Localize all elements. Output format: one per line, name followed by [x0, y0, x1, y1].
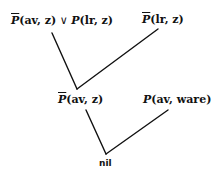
- predicate-args: (av, z): [19, 14, 56, 27]
- resolution-tree-diagram: P(av, z) ∨ P(lr, z) P(lr, z) P(av, z) P(…: [0, 0, 214, 173]
- predicate-args: (av, ware): [151, 93, 211, 106]
- node-nil: nil: [99, 156, 112, 170]
- edge-middleright-to-nil: [106, 110, 168, 154]
- predicate-args: (lr, z): [150, 13, 184, 26]
- predicate: P: [71, 14, 79, 27]
- edge-topleft-to-middleleft: [52, 33, 77, 89]
- or-operator: ∨: [56, 14, 71, 27]
- edge-middleleft-to-nil: [86, 110, 106, 154]
- node-middle-left: P(av, z): [58, 93, 103, 107]
- node-middle-right: P(av, ware): [143, 93, 211, 107]
- edge-topright-to-middleleft: [77, 29, 158, 89]
- predicate-args: (lr, z): [80, 14, 114, 27]
- node-top-right: P(lr, z): [142, 13, 184, 27]
- node-top-left: P(av, z) ∨ P(lr, z): [11, 14, 113, 28]
- predicate-args: (av, z): [66, 93, 103, 106]
